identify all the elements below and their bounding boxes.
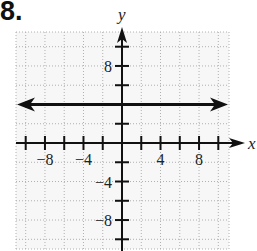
x-tick-label: 8 — [195, 151, 203, 168]
y-tick-label: 8 — [104, 58, 112, 75]
x-tick-label: −8 — [36, 151, 53, 168]
coordinate-plane: 48−8−48−4−8xy — [0, 0, 257, 251]
graph-figure: 8. 48−8−48−4−8xy — [0, 0, 257, 251]
y-tick-label: −8 — [95, 212, 112, 229]
x-tick-label: −4 — [75, 151, 92, 168]
x-tick-label: 4 — [157, 151, 165, 168]
y-axis-label: y — [116, 5, 126, 24]
x-axis-label: x — [247, 134, 256, 153]
y-tick-label: −4 — [95, 174, 112, 191]
